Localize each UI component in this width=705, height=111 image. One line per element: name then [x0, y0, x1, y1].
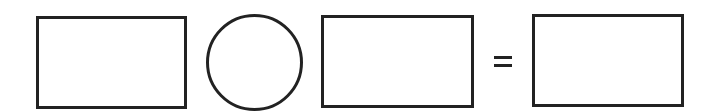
- operator-circle[interactable]: [206, 14, 303, 111]
- operator-label: [209, 17, 210, 18]
- operand-2-box[interactable]: [321, 15, 474, 108]
- operand-1-label: [39, 19, 40, 20]
- result-box[interactable]: [532, 14, 684, 107]
- result-label: [535, 17, 536, 18]
- operand-1-box[interactable]: [36, 16, 187, 109]
- equals-sign: =: [494, 56, 512, 67]
- operand-2-label: [324, 18, 325, 19]
- equals-bar-top: [494, 56, 512, 59]
- equals-bar-bottom: [494, 64, 512, 67]
